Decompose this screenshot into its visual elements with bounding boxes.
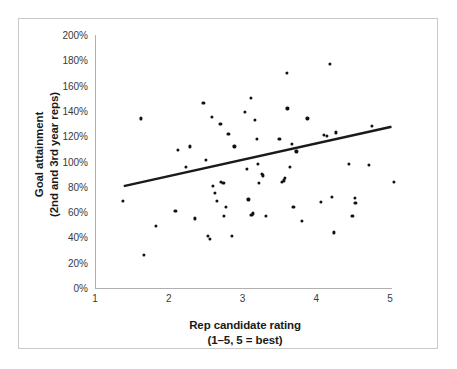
y-axis-title-sub: (2nd and 3rd year reps) <box>46 35 61 275</box>
chart-figure: 0%20%40%60%80%100%120%140%160%180%200% 1… <box>0 0 457 369</box>
y-axis-title-main: Goal attainment <box>32 35 47 275</box>
x-axis-title-main: Rep candidate rating <box>95 318 395 333</box>
x-axis-title: Rep candidate rating (1–5, 5 = best) <box>95 318 395 347</box>
x-axis-title-sub: (1–5, 5 = best) <box>95 333 395 348</box>
trend-line <box>0 0 457 369</box>
scatter-plot-area <box>0 0 457 369</box>
y-axis-title: Goal attainment (2nd and 3rd year reps) <box>32 35 61 275</box>
